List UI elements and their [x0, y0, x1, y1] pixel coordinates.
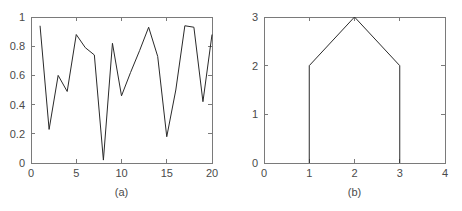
plot-a-tick-marks — [31, 17, 212, 163]
x-tick-label: 2 — [351, 167, 357, 179]
y-tick-label: 0.2 — [10, 128, 25, 140]
x-tick-label: 4 — [442, 167, 448, 179]
plot-a-y-tick-labels: 00.20.40.60.81 — [10, 11, 25, 169]
plot-b-x-tick-labels: 01234 — [261, 167, 448, 179]
x-tick-label: 20 — [206, 167, 218, 179]
x-tick-label: 10 — [115, 167, 127, 179]
y-tick-label: 2 — [252, 60, 258, 72]
plot-a-caption: (a) — [115, 186, 128, 198]
plot-panel-b: 0123 01234 (b) — [231, 0, 462, 211]
y-tick-label: 1 — [19, 11, 25, 23]
x-tick-label: 0 — [28, 167, 34, 179]
plot-b-svg: 0123 01234 (b) — [231, 0, 462, 211]
plot-a-axes-frame — [31, 17, 212, 163]
x-tick-label: 0 — [261, 167, 267, 179]
x-tick-label: 3 — [397, 167, 403, 179]
plot-b-data-series — [309, 17, 400, 163]
plot-b-caption: (b) — [348, 186, 361, 198]
x-tick-label: 15 — [161, 167, 173, 179]
plot-b-tick-marks — [264, 17, 445, 163]
x-tick-label: 5 — [73, 167, 79, 179]
plot-a-svg: 00.20.40.60.81 05101520 (a) — [0, 0, 231, 211]
y-tick-label: 0 — [252, 157, 258, 169]
y-tick-label: 0.6 — [10, 69, 25, 81]
y-tick-label: 3 — [252, 11, 258, 23]
plot-b-axes-frame — [264, 17, 445, 163]
y-tick-label: 1 — [252, 108, 258, 120]
y-tick-label: 0.8 — [10, 40, 25, 52]
y-tick-label: 0 — [19, 157, 25, 169]
plot-a-x-tick-labels: 05101520 — [28, 167, 218, 179]
plot-a-data-series — [40, 26, 212, 160]
plot-panel-a: 00.20.40.60.81 05101520 (a) — [0, 0, 231, 211]
y-tick-label: 0.4 — [10, 99, 25, 111]
x-tick-label: 1 — [306, 167, 312, 179]
plot-b-y-tick-labels: 0123 — [252, 11, 258, 169]
figure-two-panel-plots: 00.20.40.60.81 05101520 (a) 0123 01234 (… — [0, 0, 462, 211]
